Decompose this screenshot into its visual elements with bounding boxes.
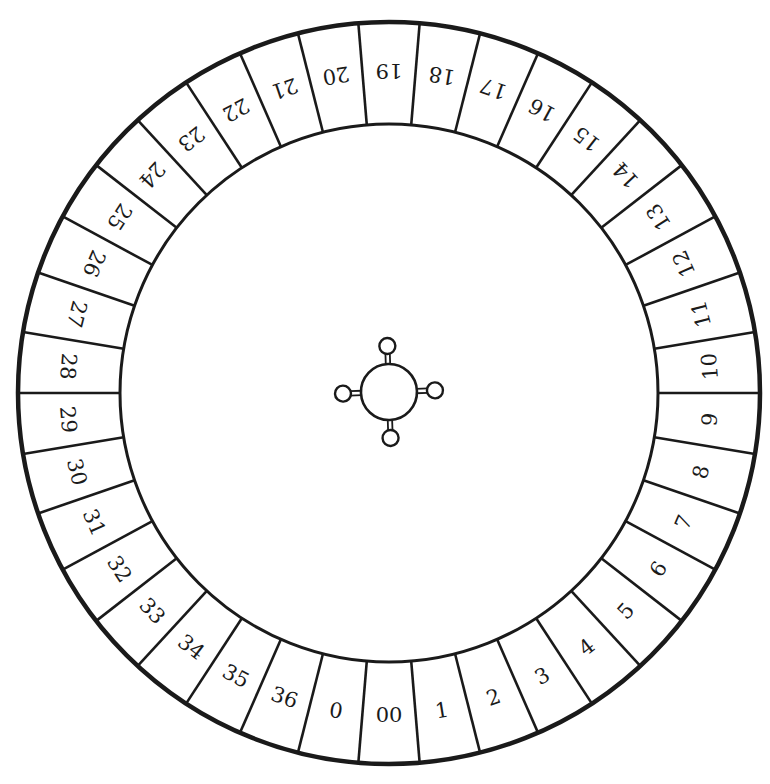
slot-number-31: 31 [78,505,111,539]
slot-number-29: 29 [55,405,81,434]
slot-number-16: 16 [525,93,560,127]
slot-divider [411,23,419,125]
spindle-hub [360,363,418,421]
slot-number-24: 24 [134,157,170,193]
slot-number-14: 14 [608,157,644,193]
slot-number-21: 21 [268,73,301,104]
slot-divider [497,639,538,732]
slot-divider [358,23,366,125]
slot-number-2: 2 [483,684,503,711]
slot-divider [643,480,739,513]
slot-number-1: 1 [433,698,450,724]
slot-number-18: 18 [427,61,457,89]
slot-number-5: 5 [613,598,640,624]
slot-number-34: 34 [173,629,209,664]
center-spindle [333,336,445,448]
slot-number-00: 00 [376,703,403,727]
slot-divider [23,437,124,454]
slot-divider [23,332,124,349]
slot-number-15: 15 [569,121,605,156]
slot-divider [455,654,480,753]
slot-number-12: 12 [668,247,701,281]
spindle-knob [379,338,396,366]
slot-number-7: 7 [670,511,697,533]
slot-number-8: 8 [688,463,715,482]
slot-number-36: 36 [268,682,301,713]
slot-number-22: 22 [218,93,253,127]
slot-number-20: 20 [321,61,351,89]
slot-number-0: 0 [327,698,344,724]
slot-divider [358,661,366,763]
slot-divider [38,480,134,513]
slot-number-4: 4 [574,634,599,661]
slot-number-26: 26 [78,247,111,281]
slot-divider [298,654,323,753]
slot-number-35: 35 [218,659,253,693]
slot-number-32: 32 [102,551,137,587]
slot-number-25: 25 [102,199,137,235]
slot-number-13: 13 [641,199,676,235]
slot-number-11: 11 [686,298,716,330]
spindle-knob [335,385,363,402]
slot-divider [298,33,323,132]
slot-divider [654,437,755,454]
slot-number-19: 19 [376,59,403,83]
spindle-knob [382,419,399,447]
slot-divider [601,558,681,621]
slot-divider [654,332,755,349]
slot-divider [643,273,739,306]
slot-number-28: 28 [55,352,81,381]
slot-divider [411,661,419,763]
slot-divider [571,591,640,666]
slot-number-6: 6 [645,557,672,581]
slot-divider [38,273,134,306]
slot-number-10: 10 [697,352,723,381]
slot-number-17: 17 [477,73,510,104]
slot-number-9: 9 [697,412,722,427]
slot-number-33: 33 [134,593,170,629]
slot-divider [455,33,480,132]
roulette-wheel-diagram: 0012345678910111213141516171819202122232… [0,0,770,784]
slot-divider [626,521,716,570]
slot-number-3: 3 [531,662,554,689]
slot-number-23: 23 [173,121,209,156]
spindle-knob [416,382,444,399]
slot-number-27: 27 [62,298,92,330]
slot-divider [536,618,592,703]
slot-number-30: 30 [62,456,92,488]
